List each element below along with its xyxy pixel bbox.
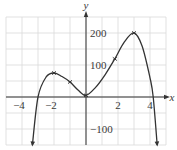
x-tick-label: 2 — [115, 99, 121, 111]
x-tick-label: −2 — [45, 99, 57, 111]
arrow-down-left-icon — [31, 141, 36, 146]
x-tick-label: −4 — [13, 99, 25, 111]
curve-end-arrows — [31, 141, 160, 146]
y-tick-label: 100 — [90, 59, 107, 71]
x-tick-label: 4 — [147, 99, 153, 111]
y-axis-arrow-icon — [84, 11, 88, 17]
polynomial-graph: −4−224200100−100xy — [0, 0, 177, 150]
axes — [6, 11, 170, 145]
arrow-down-right-icon — [155, 141, 160, 146]
x-axis-label: x — [169, 91, 175, 103]
y-tick-label: −100 — [90, 123, 113, 135]
y-axis-label: y — [83, 0, 89, 11]
y-tick-label: 200 — [90, 27, 107, 39]
